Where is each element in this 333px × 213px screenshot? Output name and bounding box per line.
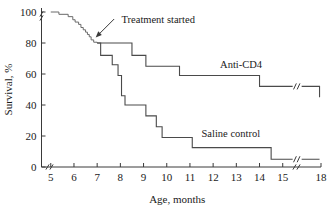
x-tick-label: 15	[277, 171, 289, 183]
x-tick-label: 6	[71, 171, 77, 183]
x-tick-label: 7	[94, 171, 100, 183]
y-tick-label: 60	[26, 68, 38, 80]
y-tick-label: 80	[26, 37, 38, 49]
y-tick-label: 20	[26, 130, 38, 142]
x-tick-label: 9	[141, 171, 147, 183]
x-tick-label: 14	[254, 171, 266, 183]
y-tick-label: 40	[26, 99, 38, 111]
x-tick-label: 10	[161, 171, 173, 183]
x-tick-label: 5	[48, 171, 54, 183]
annotation-treatment-started: Treatment started	[122, 14, 196, 25]
x-tick-label: 18	[316, 171, 328, 183]
x-tick-label: 13	[231, 171, 243, 183]
series-label-saline-control: Saline control	[202, 128, 261, 139]
chart-canvas: 020406080100 5678910111213141518 Treatme…	[0, 0, 333, 213]
curve-break-mark	[293, 156, 302, 163]
y-tick-label: 100	[20, 6, 37, 18]
survival-chart: 020406080100 5678910111213141518 Treatme…	[0, 0, 333, 213]
x-tick-label: 8	[118, 171, 124, 183]
series-label-anti-cd4: Anti-CD4	[220, 59, 263, 70]
y-tick-label: 0	[31, 161, 37, 173]
x-tick-label: 11	[185, 171, 196, 183]
curve-break-mark	[293, 83, 302, 90]
x-tick-label: 12	[208, 171, 219, 183]
y-axis-title: Survival, %	[2, 64, 14, 116]
x-axis-title: Age, months	[149, 193, 205, 205]
